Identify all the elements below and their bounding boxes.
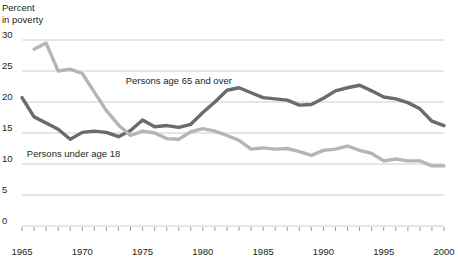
x-tick-label-1995: 1995 — [364, 246, 404, 257]
y-tick-label-15: 15 — [2, 122, 22, 133]
plot-area — [0, 0, 458, 272]
x-tick-label-1980: 1980 — [183, 246, 223, 257]
y-tick-label-30: 30 — [2, 29, 22, 40]
x-tick-label-1970: 1970 — [62, 246, 102, 257]
x-tick-label-1985: 1985 — [243, 246, 283, 257]
x-tick-label-1975: 1975 — [123, 246, 163, 257]
y-tick-label-10: 10 — [2, 153, 22, 164]
y-tick-label-25: 25 — [2, 60, 22, 71]
series-label-0: Persons under age 18 — [27, 148, 120, 159]
y-tick-label-5: 5 — [2, 184, 22, 195]
y-tick-label-0: 0 — [2, 215, 22, 226]
series-label-1: Persons age 65 and over — [126, 75, 232, 86]
x-tick-label-2000: 2000 — [424, 246, 458, 257]
x-tick-label-1990: 1990 — [303, 246, 343, 257]
series-line-0 — [22, 85, 444, 139]
y-tick-label-20: 20 — [2, 91, 22, 102]
poverty-rate-line-chart: Percent in poverty 051015202530 19651970… — [0, 0, 458, 272]
x-tick-label-1965: 1965 — [2, 246, 42, 257]
